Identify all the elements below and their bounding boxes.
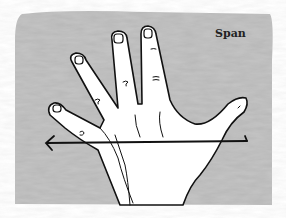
span-label: Span	[215, 27, 246, 40]
